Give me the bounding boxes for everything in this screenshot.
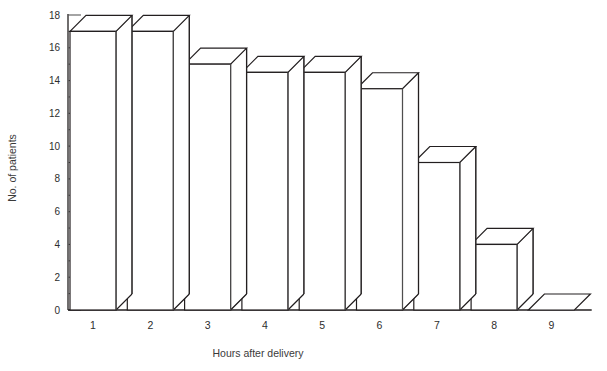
y-axis-title: No. of patients [6, 134, 18, 202]
y-tick-label: 6 [54, 206, 60, 217]
bar-front-face [357, 89, 403, 310]
bar-side-face [173, 15, 189, 310]
y-tick-label: 0 [54, 305, 60, 316]
y-tick-label: 16 [49, 42, 61, 53]
bar-front-face [127, 31, 173, 310]
bar-2 [127, 15, 189, 310]
bar-front-face [414, 163, 460, 311]
x-tick-label: 5 [319, 319, 325, 331]
bar-side-face [116, 15, 132, 310]
bar-7 [414, 147, 476, 311]
y-tick-label: 2 [54, 272, 60, 283]
y-tick-label: 18 [49, 10, 61, 21]
bar-5 [299, 56, 361, 310]
bar-side-face [403, 73, 419, 310]
chart-canvas: 024681012141618123456789 No. of patients… [0, 0, 607, 371]
bar-8 [471, 228, 533, 310]
bar-front-face [299, 72, 345, 310]
x-tick-label: 4 [262, 319, 268, 331]
bar-6 [357, 73, 419, 310]
y-tick-label: 12 [49, 108, 61, 119]
x-tick-label: 6 [377, 319, 383, 331]
y-tick-label: 8 [54, 173, 60, 184]
y-tick-label: 10 [49, 141, 61, 152]
bar-front-face [242, 72, 288, 310]
bar-front-face [70, 31, 116, 310]
y-tick-label: 4 [54, 239, 60, 250]
x-tick-label: 3 [205, 319, 211, 331]
bar-side-face [460, 147, 476, 311]
x-tick-label: 1 [90, 319, 96, 331]
x-tick-label: 8 [491, 319, 497, 331]
bar-1 [70, 15, 132, 310]
bar-side-face [288, 56, 304, 310]
x-tick-label: 7 [434, 319, 440, 331]
bar-chart-figure: 024681012141618123456789 No. of patients… [0, 0, 607, 371]
bar-side-face [345, 56, 361, 310]
y-tick-label: 14 [49, 75, 61, 86]
bar-3 [185, 48, 247, 310]
bar-4 [242, 56, 304, 310]
x-tick-label: 9 [548, 319, 554, 331]
bar-side-face [231, 48, 247, 310]
bar-front-face [185, 64, 231, 310]
x-tick-label: 2 [147, 319, 153, 331]
bar-front-face [471, 244, 517, 310]
x-axis-title: Hours after delivery [212, 347, 304, 359]
